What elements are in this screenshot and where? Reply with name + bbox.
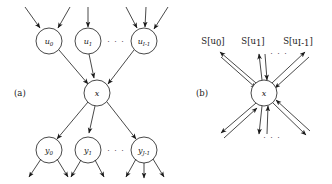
panel-b: x S[u0] S[u1] S[uI-1] · · · · · · (b) [196, 36, 313, 142]
panel-a: u0 u1 uI-1 x y0 y1 yJ-1 · · · · · · [14, 7, 168, 178]
ellipsis-y-row: · · · [107, 146, 125, 155]
figure-container: u0 u1 uI-1 x y0 y1 yJ-1 · · · · · · [0, 0, 332, 184]
ellipsis-u-row: · · · [107, 37, 125, 46]
figure-svg: u0 u1 uI-1 x y0 y1 yJ-1 · · · · · · [0, 0, 332, 184]
edges-u-to-x [59, 50, 134, 84]
panel-label-a: (a) [14, 88, 26, 98]
external-inputs-u0 [25, 7, 70, 28]
message-arrows-lower-left [221, 103, 257, 138]
external-inputs-uI1 [126, 7, 168, 29]
panel-label-b: (b) [196, 88, 208, 98]
ellipsis-b-lower: · · · [263, 133, 281, 142]
message-arrows-S-u1 [259, 54, 267, 80]
edges-x-to-y [57, 102, 136, 139]
message-label-S-u1: S[u1] [241, 36, 264, 48]
message-arrows-lower-right [273, 100, 310, 135]
message-arrows-lower-middle [259, 106, 268, 134]
node-label-x-b: x [262, 89, 267, 98]
message-arrows-S-u0 [220, 52, 256, 88]
message-label-S-uI1: S[uI-1] [283, 36, 313, 48]
ellipsis-b-upper: · · · [270, 49, 288, 58]
node-label-x-a: x [95, 89, 100, 98]
message-label-S-u0: S[u0] [201, 36, 224, 48]
